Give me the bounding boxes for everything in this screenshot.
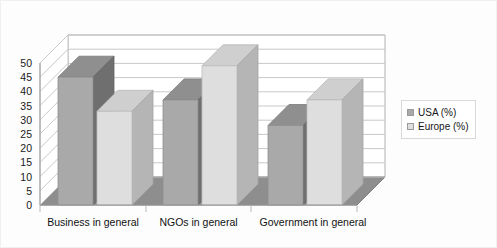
- y-tick-20: 20: [6, 143, 32, 153]
- bar-side-face: [237, 45, 258, 205]
- y-tick-15: 15: [6, 157, 32, 167]
- legend-label-europe: Europe (%): [418, 121, 469, 132]
- legend-swatch-usa: [407, 109, 414, 116]
- y-tick-0: 0: [6, 200, 32, 210]
- bar-front-face: [307, 100, 342, 205]
- y-tick-50: 50: [6, 58, 32, 68]
- bar-europe-government: [307, 79, 363, 205]
- y-tick-25: 25: [6, 129, 32, 139]
- y-tick-40: 40: [6, 86, 32, 96]
- x-label-business: Business in general: [40, 216, 146, 228]
- y-tick-10: 10: [6, 172, 32, 182]
- y-axis-tick-labels: 50 45 40 35 30 25 20 15 10 5 0: [2, 0, 32, 248]
- bar-front-face: [202, 66, 237, 205]
- x-label-government: Government in general: [251, 216, 375, 228]
- bar-europe-ngos: [202, 45, 258, 205]
- legend-label-usa: USA (%): [418, 107, 456, 118]
- chart-legend: USA (%) Europe (%): [401, 100, 476, 139]
- bar-front-face: [58, 77, 93, 205]
- bar-side-face: [342, 79, 363, 205]
- x-axis-ticks: [40, 205, 357, 212]
- bar-front-face: [163, 100, 198, 205]
- y-tick-5: 5: [6, 186, 32, 196]
- legend-item-europe: Europe (%): [407, 120, 469, 133]
- legend-swatch-europe: [407, 123, 414, 130]
- legend-item-usa: USA (%): [407, 106, 469, 119]
- x-axis-category-labels: Business in general NGOs in general Gove…: [40, 212, 385, 234]
- bar-front-face: [97, 111, 132, 205]
- chart-figure: 50 45 40 35 30 25 20 15 10 5 0 Business …: [0, 0, 497, 248]
- x-label-ngos: NGOs in general: [146, 216, 251, 228]
- y-tick-45: 45: [6, 72, 32, 82]
- y-tick-30: 30: [6, 115, 32, 125]
- bar-front-face: [268, 126, 303, 206]
- bar-europe-business: [97, 90, 153, 205]
- y-tick-35: 35: [6, 101, 32, 111]
